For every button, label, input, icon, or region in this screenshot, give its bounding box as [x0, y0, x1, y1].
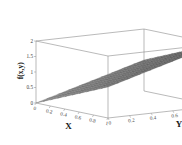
ytick-label: 0.4: [149, 114, 157, 121]
ztick-label: 0.5: [27, 84, 34, 90]
xtick-label: 0.8: [89, 116, 97, 123]
ytick-label: 0: [108, 119, 112, 125]
xtick-label: 0.6: [74, 113, 82, 120]
y-axis-title: Y: [176, 119, 182, 129]
ytick-label: 0.2: [128, 117, 136, 124]
ztick-label: 0: [30, 100, 33, 106]
ztick-label: 1.5: [27, 53, 34, 59]
ztick-label: 1: [30, 69, 33, 75]
axis-titles: XYf(x,y): [16, 62, 182, 131]
surface-plot-figure: 00.511.5200.20.40.60.8100.20.40.60.81 XY…: [0, 0, 182, 145]
z-axis-title: f(x,y): [16, 62, 25, 79]
xtick-label: 0: [33, 105, 37, 111]
xtick-label: 0.4: [60, 110, 68, 117]
ztick-label: 2: [30, 38, 33, 44]
plot-canvas: 00.511.5200.20.40.60.8100.20.40.60.81 XY…: [0, 0, 182, 145]
xtick-label: 0.2: [46, 107, 54, 114]
axes-box-front: [36, 29, 182, 118]
x-axis-title: X: [65, 121, 72, 131]
